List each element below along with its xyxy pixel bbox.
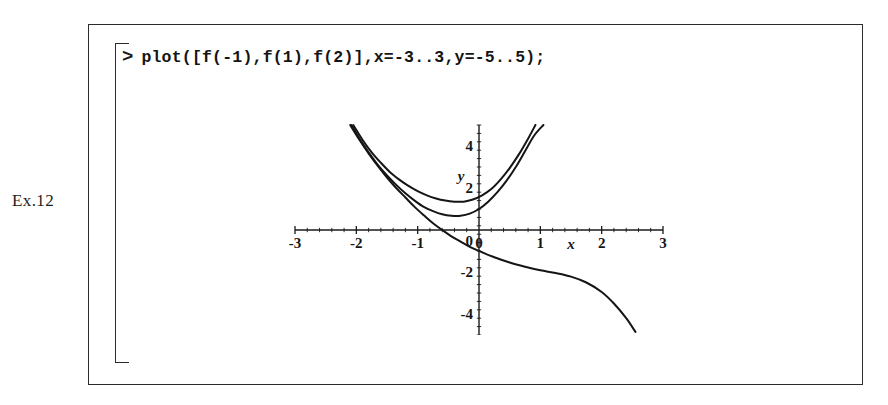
plot-canvas[interactable]: -3-2-10123420-2-4xy: [279, 120, 679, 335]
plot-curve: [353, 125, 535, 202]
x-axis-tick-label: 2: [598, 235, 606, 251]
prompt-caret-icon: >: [122, 48, 133, 67]
y-axis-tick-label: 4: [466, 138, 474, 154]
plot-output-region[interactable]: -3-2-10123420-2-4xy: [279, 120, 679, 335]
maple-input-line[interactable]: > plot([f(-1),f(1),f(2)],x=-3..3,y=-5..5…: [122, 48, 545, 67]
y-axis-tick-label: -2: [461, 264, 474, 280]
execution-group-bracket[interactable]: [115, 43, 129, 363]
x-axis-tick-label: -3: [289, 235, 302, 251]
x-axis-tick-label: 1: [537, 235, 545, 251]
y-axis-tick-label: 0: [466, 233, 474, 249]
x-axis-tick-label: 0: [475, 235, 483, 251]
x-axis-tick-label: 3: [659, 235, 667, 251]
y-axis-name-label: y: [456, 168, 465, 184]
exercise-label: Ex.12: [12, 191, 54, 211]
x-axis-name-label: x: [566, 236, 575, 252]
x-axis-tick-label: -1: [411, 235, 424, 251]
command-input[interactable]: plot([f(-1),f(1),f(2)],x=-3..3,y=-5..5);: [141, 50, 545, 67]
x-axis-tick-label: -2: [350, 235, 363, 251]
worksheet-frame: > plot([f(-1),f(1),f(2)],x=-3..3,y=-5..5…: [88, 24, 863, 385]
axes-layer: [295, 125, 663, 335]
y-axis-tick-label: 2: [466, 180, 474, 196]
y-axis-tick-label: -4: [461, 306, 474, 322]
